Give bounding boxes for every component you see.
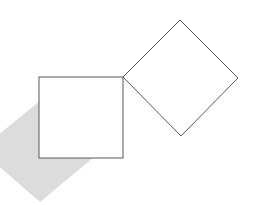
geometric-figure-svg — [0, 0, 262, 205]
upright-square-shape — [39, 77, 123, 158]
rotated-square-shape — [123, 20, 238, 136]
figure-canvas — [0, 0, 262, 205]
